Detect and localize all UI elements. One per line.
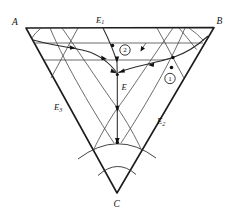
web-line-right-3 xyxy=(51,28,78,78)
junction-dot-right xyxy=(171,56,174,59)
sample-1-label: 1 xyxy=(168,75,172,83)
corner-b-isotherm-1 xyxy=(189,28,204,41)
arrow-on-e3E-2 xyxy=(101,56,107,61)
binary-eutectic-e1-label: E1 xyxy=(95,15,104,26)
isotherm-horizontal-2 xyxy=(44,58,173,60)
web-line-left-3 xyxy=(157,28,184,78)
ternary-eutectic-label: E xyxy=(121,82,128,92)
arrow-on-e1E xyxy=(115,57,119,63)
path-end-dot xyxy=(116,141,119,144)
web-line-right-1 xyxy=(121,28,185,143)
sample-2-label: 2 xyxy=(123,46,127,54)
arrow-on-e2E-terminal xyxy=(118,69,125,73)
web-line-left-1 xyxy=(50,28,114,143)
corner-a-isotherm xyxy=(32,28,42,39)
vertex-c-label: C xyxy=(114,199,121,209)
ternary-diagram-canvas: 2 1 A B C E1 E2 E3 E xyxy=(0,0,233,218)
vertex-b-label: B xyxy=(217,16,223,26)
phase-diagram-figure: 2 1 A B C E1 E2 E3 E xyxy=(0,0,233,218)
cooling-arrow-head xyxy=(141,46,146,52)
ternary-eutectic-dot xyxy=(116,73,119,76)
vertex-a-label: A xyxy=(11,17,18,27)
boundary-e3-E xyxy=(33,40,117,73)
boundary-e1-E xyxy=(103,28,117,74)
binary-eutectic-e3-label: E3 xyxy=(53,102,62,113)
labels: A B C E1 E2 E3 E xyxy=(11,15,223,209)
sample-2-dot xyxy=(111,44,115,48)
point-markers xyxy=(111,44,175,145)
sample-1-dot xyxy=(170,66,174,70)
binary-eutectic-e2-label: E2 xyxy=(156,116,165,127)
boundary-curves xyxy=(33,28,208,143)
